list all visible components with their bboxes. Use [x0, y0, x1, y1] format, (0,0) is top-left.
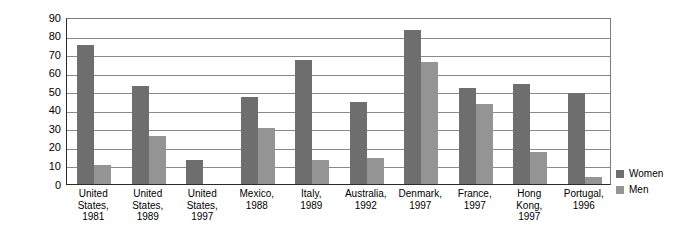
bar-women-7 [459, 88, 476, 184]
y-tick-label: 30 [39, 124, 61, 135]
bar-men-7 [476, 104, 493, 184]
x-tick-label: Australia, 1992 [339, 188, 394, 211]
bar-women-3 [241, 97, 258, 184]
y-tick-label: 70 [39, 50, 61, 61]
x-tick-label: France, 1997 [448, 188, 503, 211]
bar-chart: Percentage shown in dependent role 90807… [0, 0, 673, 248]
bar-men-4 [312, 160, 329, 184]
x-tick-label: Denmark, 1997 [393, 188, 448, 211]
legend-label: Women [629, 169, 663, 179]
bar-women-6 [404, 30, 421, 184]
bar-women-5 [350, 102, 367, 184]
bar-men-0 [94, 165, 111, 184]
bar-men-3 [258, 128, 275, 184]
x-tick-label: United States, 1981 [66, 188, 121, 223]
legend: WomenMen [616, 166, 672, 198]
x-tick-label: United States, 1997 [175, 188, 230, 223]
gridline [67, 56, 610, 57]
y-tick-label: 20 [39, 142, 61, 153]
bar-men-6 [421, 62, 438, 184]
x-tick-label: Mexico, 1988 [230, 188, 285, 211]
x-tick-label: Italy, 1989 [284, 188, 339, 211]
gridline [67, 75, 610, 76]
y-tick-label: 0 [39, 180, 61, 191]
y-tick-label: 50 [39, 87, 61, 98]
bar-women-1 [132, 86, 149, 184]
x-tick-label: United States, 1989 [121, 188, 176, 223]
legend-item: Men [616, 182, 672, 198]
gridline [67, 38, 610, 39]
legend-label: Men [629, 185, 648, 195]
bar-women-0 [77, 45, 94, 184]
legend-swatch-icon [616, 186, 624, 194]
y-tick-label: 40 [39, 105, 61, 116]
y-tick-label: 90 [39, 13, 61, 24]
bar-women-4 [295, 60, 312, 184]
bar-men-5 [367, 158, 384, 184]
bar-women-2 [186, 160, 203, 184]
y-tick-label: 60 [39, 68, 61, 79]
bar-men-1 [149, 136, 166, 184]
legend-swatch-icon [616, 170, 624, 178]
bar-men-8 [530, 152, 547, 184]
x-tick-label: Hong Kong, 1997 [502, 188, 557, 223]
x-tick-label: Portugal, 1996 [557, 188, 612, 211]
legend-item: Women [616, 166, 672, 182]
y-tick-label: 10 [39, 161, 61, 172]
y-tick-label: 80 [39, 31, 61, 42]
bar-women-8 [513, 84, 530, 184]
plot-area [66, 18, 611, 185]
bar-men-9 [585, 177, 602, 184]
bar-women-9 [568, 93, 585, 184]
